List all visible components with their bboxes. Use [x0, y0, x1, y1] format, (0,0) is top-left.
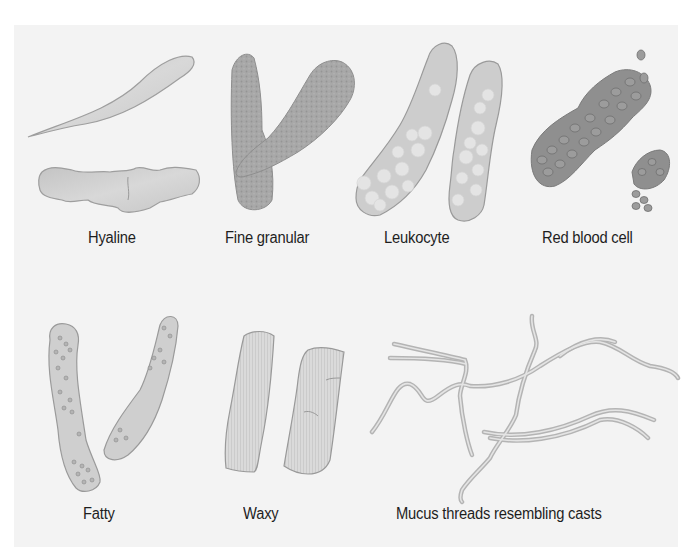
label-mucus-threads: Mucus threads resembling casts [396, 505, 602, 523]
waxy-cast-illustration [225, 332, 344, 475]
hyaline-cast-illustration [28, 56, 199, 212]
label-fine-granular: Fine granular [225, 229, 309, 247]
label-leukocyte: Leukocyte [384, 229, 449, 247]
casts-illustration [0, 0, 692, 547]
label-fatty: Fatty [83, 505, 115, 523]
label-red-blood-cell: Red blood cell [542, 229, 633, 247]
label-hyaline: Hyaline [88, 229, 136, 247]
mucus-threads-illustration [372, 316, 678, 502]
red-blood-cell-cast-illustration [531, 50, 669, 212]
label-waxy: Waxy [243, 505, 279, 523]
fine-granular-cast-illustration [231, 54, 354, 210]
leukocyte-cast-illustration [356, 43, 502, 221]
fatty-cast-illustration [49, 316, 178, 491]
